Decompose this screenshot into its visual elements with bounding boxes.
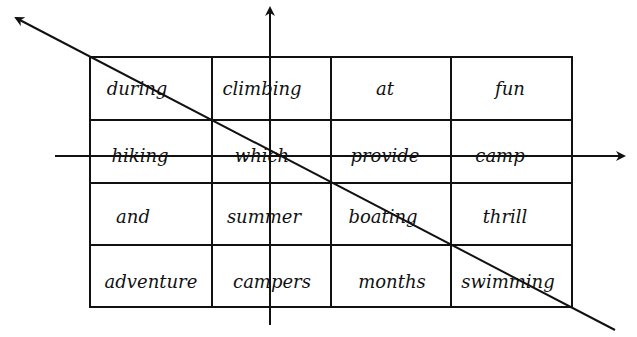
cell-r3-c1: campers (233, 271, 311, 292)
cell-r3-c3: swimming (461, 271, 554, 292)
cell-r3-c0: adventure (105, 271, 198, 292)
cell-r1-c0: hiking (111, 145, 168, 166)
cell-r1-c3: camp (475, 145, 525, 166)
cell-r0-c3: fun (493, 78, 525, 99)
cell-r1-c1: which (235, 145, 289, 166)
cell-r0-c2: at (376, 78, 395, 99)
cell-r3-c2: months (358, 271, 426, 292)
cell-r2-c3: thrill (483, 206, 528, 227)
cell-r2-c1: summer (227, 206, 303, 227)
cell-r1-c2: provide (350, 145, 419, 166)
cell-r0-c0: during (107, 78, 168, 99)
cell-r2-c2: boating (348, 206, 417, 227)
word-grid-diagram: during climbing at fun hiking which prov… (0, 0, 637, 337)
cell-r2-c0: and (116, 206, 150, 227)
cell-r0-c1: climbing (222, 78, 301, 99)
grid-cells: during climbing at fun hiking which prov… (105, 78, 555, 292)
